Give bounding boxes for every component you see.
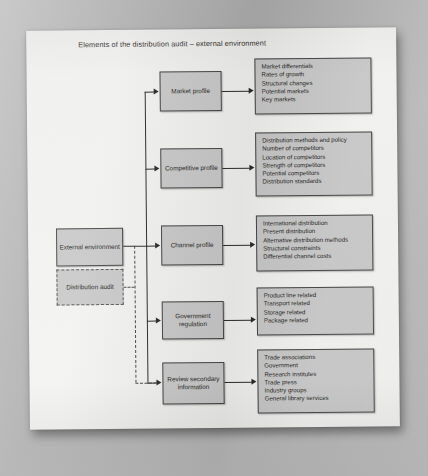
node-distribution-audit-label: Distribution audit (66, 283, 114, 292)
node-market-profile: Market profile (159, 71, 221, 112)
arrowhead-review-secondary (156, 380, 161, 386)
detail-box-government-regulation: Product line related Transport related S… (257, 286, 374, 335)
detail-box-competitive-profile: Distribution methods and policy Number o… (255, 131, 373, 196)
node-market-profile-label: Market profile (171, 87, 210, 96)
document-page: Elements of the distribution audit – ext… (26, 27, 400, 430)
connector-trunk-vertical (145, 92, 149, 384)
diagram-canvas: Elements of the distribution audit – ext… (26, 27, 400, 430)
detail-box-review-secondary-information: Trade associations Government Research i… (257, 348, 375, 413)
node-channel-profile-label: Channel profile (171, 241, 214, 250)
detail-item: Package related (264, 315, 369, 324)
connector-competitive-profile-to-detail (222, 168, 250, 169)
detail-box-channel-profile: International distribution Present distr… (256, 214, 374, 271)
node-review-secondary-information-label: Review secondary information (163, 375, 223, 392)
connector-channel-profile-to-detail (223, 245, 251, 246)
connector-review-secondary-to-detail (224, 382, 252, 383)
dashed-connector-audit-vertical (134, 246, 136, 383)
node-distribution-audit: Distribution audit (56, 269, 123, 306)
detail-box-market-profile: Market differentials Rates of growth Str… (254, 57, 372, 114)
arrowhead-detail-market-profile (249, 88, 254, 94)
node-external-environment: External environment (56, 228, 123, 267)
dashed-connector-audit-to-review (135, 383, 156, 384)
arrowhead-detail-review-secondary (251, 379, 256, 385)
diagram-title: Elements of the distribution audit – ext… (78, 38, 266, 49)
node-channel-profile: Channel profile (161, 225, 223, 266)
arrowhead-detail-government-regulation (251, 317, 256, 323)
dashed-connector-audit-out (124, 287, 135, 288)
scanned-page-backdrop: Elements of the distribution audit – ext… (0, 0, 428, 476)
node-competitive-profile-label: Competitive profile (165, 164, 218, 173)
node-government-regulation-label: Government regulation (163, 312, 223, 329)
detail-item: Distribution standards (263, 177, 368, 186)
connector-market-profile-to-detail (222, 91, 250, 92)
detail-item: Differential channel costs (263, 252, 368, 261)
arrowhead-market-profile (154, 89, 159, 95)
arrowhead-detail-competitive-profile (249, 165, 254, 171)
connector-government-regulation-to-detail (224, 320, 252, 321)
arrowhead-government-regulation (156, 318, 161, 324)
arrowhead-channel-profile (155, 243, 160, 249)
detail-item: Key markets (262, 95, 367, 104)
detail-item: General library services (265, 394, 370, 403)
node-government-regulation: Government regulation (162, 301, 224, 340)
arrowhead-competitive-profile (154, 166, 159, 172)
node-external-environment-label: External environment (59, 243, 119, 252)
arrowhead-detail-channel-profile (250, 242, 255, 248)
node-competitive-profile: Competitive profile (160, 148, 222, 189)
node-review-secondary-information: Review secondary information (162, 362, 224, 405)
